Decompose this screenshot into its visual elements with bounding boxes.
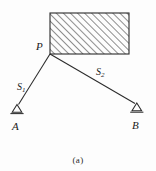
side-label-s1-subscript: 1 [22, 86, 26, 94]
obstruction-block [50, 13, 129, 54]
sight-line-s2 [50, 54, 135, 104]
station-marker-b [130, 103, 143, 112]
point-label-p: P [36, 41, 43, 52]
side-label-s2-subscript: 2 [101, 71, 105, 79]
side-label-s2: S2 [96, 67, 105, 77]
sight-line-s1 [19, 54, 51, 105]
station-marker-a [10, 105, 23, 114]
figure-container: P A B S1 S2 (a) [0, 0, 156, 171]
point-label-b: B [132, 120, 139, 131]
station-b-triangle-icon [132, 103, 142, 111]
figure-caption: (a) [0, 155, 156, 165]
obstruction-hatch-fill [50, 13, 129, 54]
point-label-a: A [12, 121, 19, 132]
side-label-s1: S1 [17, 82, 26, 92]
station-a-triangle-icon [12, 105, 22, 113]
